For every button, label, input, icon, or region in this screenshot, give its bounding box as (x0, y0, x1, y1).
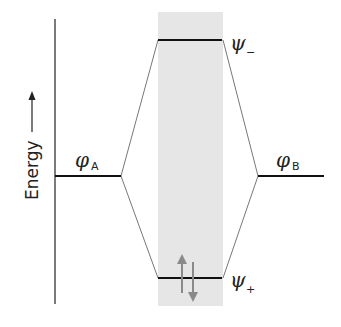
energy-axis-label-group: Energy (22, 140, 42, 200)
label-phi-b: φ B (276, 148, 300, 173)
energy-axis-label: Energy (22, 140, 42, 200)
mo-diagram: Energy φ A φ B ψ (0, 0, 341, 327)
label-phi-b-subscript: B (292, 160, 300, 173)
label-phi-b-symbol: φ (276, 148, 290, 172)
label-phi-a-subscript: A (91, 160, 99, 173)
label-phi-a: φ A (75, 148, 99, 173)
label-psi-minus-subscript: − (246, 46, 255, 59)
connector-phiA-psiplus (121, 176, 158, 278)
mo-diagram-svg: Energy φ A φ B ψ (0, 0, 341, 327)
molecular-orbital-region (158, 12, 223, 306)
label-phi-a-symbol: φ (75, 148, 89, 172)
label-psi-minus: ψ − (230, 31, 255, 59)
connector-phiB-psiminus (223, 40, 258, 176)
label-psi-plus-subscript: + (246, 283, 255, 296)
label-psi-plus-symbol: ψ (230, 268, 246, 292)
label-psi-minus-symbol: ψ (230, 31, 246, 55)
label-psi-plus: ψ + (230, 268, 255, 296)
connector-phiB-psiplus (223, 176, 258, 278)
energy-arrow-icon (29, 91, 36, 100)
connector-phiA-psiminus (121, 40, 158, 176)
